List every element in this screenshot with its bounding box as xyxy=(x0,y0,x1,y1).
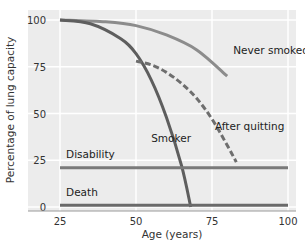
lung-capacity-chart: 0255075100 255075100 Never smokedSmokerA… xyxy=(0,0,305,251)
x-tick-label: 100 xyxy=(278,216,297,227)
label-smoker: Smoker xyxy=(151,132,191,144)
x-tick-label: 75 xyxy=(206,216,219,227)
plot-background xyxy=(28,10,296,211)
y-tick-label: 25 xyxy=(33,155,46,166)
y-tick-label: 75 xyxy=(33,62,46,73)
x-tick-label: 50 xyxy=(130,216,143,227)
x-axis-label: Age (years) xyxy=(142,228,203,240)
label-death: Death xyxy=(66,186,98,198)
x-tick-label: 25 xyxy=(54,216,67,227)
label-never-smoked: Never smoked xyxy=(233,44,305,56)
y-axis-label: Percentage of lung capacity xyxy=(4,37,16,183)
x-axis-ticks: 255075100 xyxy=(54,216,298,227)
y-tick-label: 100 xyxy=(27,15,46,26)
label-after-quitting: After quitting xyxy=(215,120,284,132)
label-disability: Disability xyxy=(66,148,115,160)
y-tick-label: 50 xyxy=(33,109,46,120)
